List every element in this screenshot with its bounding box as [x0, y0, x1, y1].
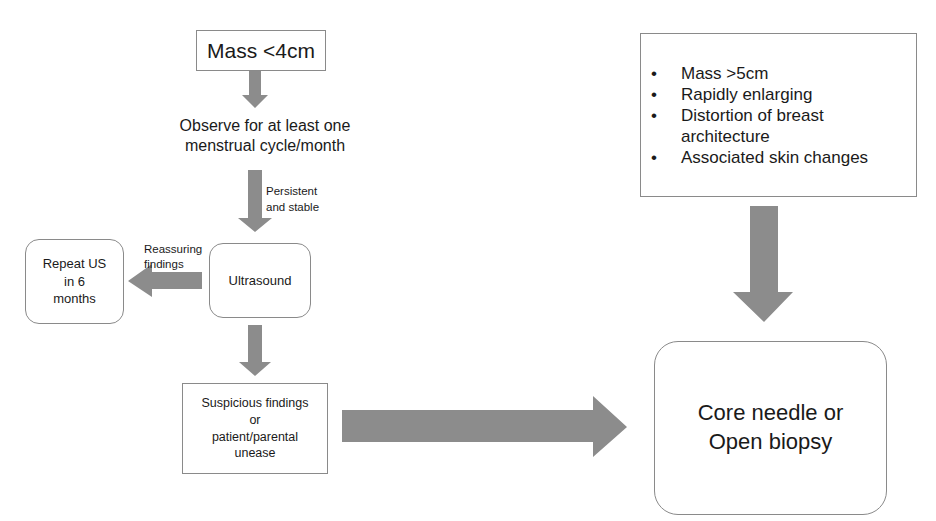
reassuring-label: Reassuring findings [144, 242, 202, 272]
arrow-down-icon [242, 70, 268, 108]
criteria-item: Associated skin changes [681, 147, 871, 168]
repeat-us-line-2: in 6 [43, 273, 107, 291]
suspicious-line-2: or [201, 412, 308, 429]
arrow-down-icon [239, 325, 271, 376]
criteria-list: Mass >5cm Rapidly enlarging Distortion o… [641, 63, 871, 168]
observe-text: Observe for at least one menstrual cycle… [160, 116, 370, 156]
biopsy-line-2: Open biopsy [698, 428, 844, 457]
suspicious-line-3: patient/parental [201, 429, 308, 446]
reassuring-line-1: Reassuring [144, 242, 202, 257]
criteria-item: Mass >5cm [681, 63, 871, 84]
suspicious-line-1: Suspicious findings [201, 395, 308, 412]
biopsy-line-1: Core needle or [698, 399, 844, 428]
criteria-item: Rapidly enlarging [681, 84, 871, 105]
persistent-line-2: and stable [266, 199, 319, 215]
repeat-us-line-1: Repeat US [43, 255, 107, 273]
repeat-us-line-3: months [43, 290, 107, 308]
arrow-right-icon [342, 396, 627, 457]
suspicious-line-4: unease [201, 445, 308, 462]
suspicious-box: Suspicious findings or patient/parental … [182, 383, 328, 474]
ultrasound-label: Ultrasound [229, 273, 292, 288]
observe-line-2: menstrual cycle/month [160, 136, 370, 156]
arrow-down-icon [733, 206, 793, 322]
biopsy-box: Core needle or Open biopsy [654, 341, 887, 515]
repeat-us-box: Repeat US in 6 months [25, 239, 124, 324]
criteria-item: Distortion of breast architecture [681, 105, 871, 147]
persistent-label: Persistent and stable [266, 183, 319, 215]
mass-small-box: Mass <4cm [196, 30, 326, 71]
mass-small-label: Mass <4cm [207, 39, 315, 63]
reassuring-line-2: findings [144, 257, 202, 272]
criteria-box: Mass >5cm Rapidly enlarging Distortion o… [640, 33, 917, 197]
persistent-line-1: Persistent [266, 183, 319, 199]
ultrasound-box: Ultrasound [209, 243, 311, 318]
observe-line-1: Observe for at least one [160, 116, 370, 136]
